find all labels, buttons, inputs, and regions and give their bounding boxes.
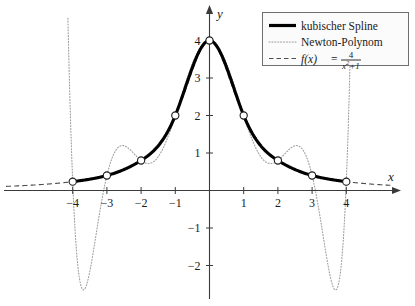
y-axis-label: y <box>215 6 223 21</box>
y-tick-label-1: 2 <box>195 109 201 123</box>
x-tick-label-4: 1 <box>241 196 247 210</box>
legend: kubischer Spline Newton-Polynom f(x) = 4… <box>263 13 409 71</box>
interpolation-node <box>240 112 247 119</box>
legend-label-spline: kubischer Spline <box>301 20 378 33</box>
interpolation-node <box>103 172 110 179</box>
legend-label-newton: Newton-Polynom <box>301 36 383 49</box>
x-tick-label-2: −2 <box>135 196 148 210</box>
legend-formula-denominator: x2+1 <box>341 59 360 70</box>
x-tick-label-5: 2 <box>275 196 281 210</box>
legend-formula-equals: = <box>331 53 338 65</box>
y-tick-label-5: −2 <box>188 259 201 273</box>
y-tick-label-0: 1 <box>195 146 201 160</box>
legend-formula-lhs: f(x) <box>301 53 317 66</box>
interpolation-node <box>69 178 76 185</box>
interpolation-chart: x y −4−3−2−11234 1234−1−2 kubischer Spli… <box>0 0 415 306</box>
interpolation-node <box>138 157 145 164</box>
interpolation-node <box>309 172 316 179</box>
interpolation-node <box>274 157 281 164</box>
x-tick-label-1: −3 <box>101 196 114 210</box>
interpolation-node <box>343 178 350 185</box>
x-axis-label: x <box>387 169 394 184</box>
interpolation-node <box>172 112 179 119</box>
x-tick-label-3: −1 <box>169 196 182 210</box>
interpolation-node <box>206 37 213 44</box>
y-tick-label-3: 4 <box>195 34 201 48</box>
y-tick-label-4: −1 <box>188 221 201 235</box>
x-tick-label-0: −4 <box>66 196 79 210</box>
x-tick-label-6: 3 <box>309 196 315 210</box>
y-tick-label-2: 3 <box>195 71 201 85</box>
legend-formula-numerator: 4 <box>349 50 354 60</box>
x-tick-label-7: 4 <box>343 196 349 210</box>
